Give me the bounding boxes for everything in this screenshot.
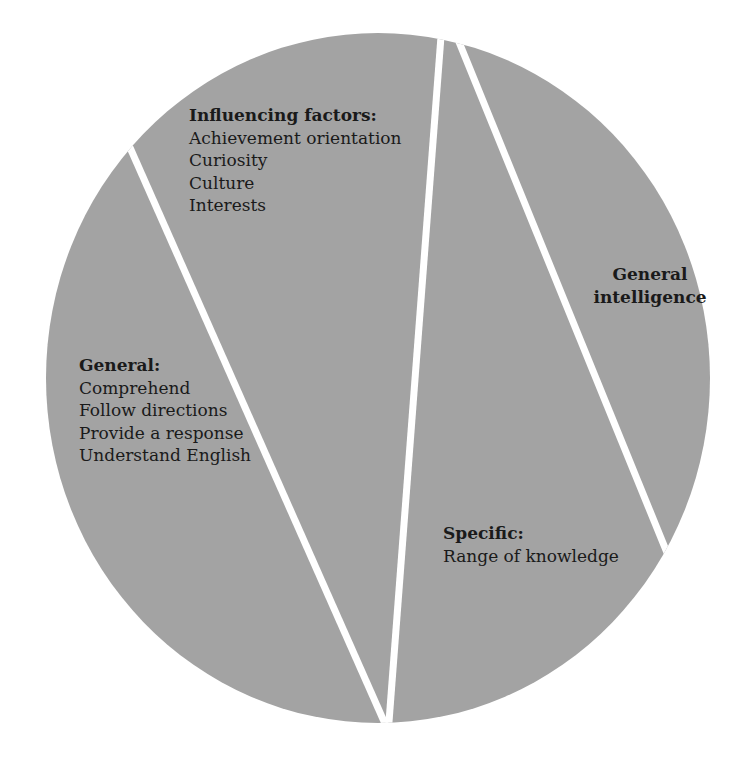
section-heading: General: — [79, 354, 251, 377]
section-item: Interests — [189, 194, 402, 217]
section-item: Achievement orientation — [189, 127, 402, 150]
section-item: Follow directions — [79, 399, 251, 422]
section-general: General: Comprehend Follow directions Pr… — [79, 354, 251, 467]
section-specific: Specific: Range of knowledge — [443, 522, 619, 567]
section-heading: Specific: — [443, 522, 619, 545]
section-item: Curiosity — [189, 149, 402, 172]
section-heading-line: General — [590, 263, 710, 286]
section-item: Understand English — [79, 444, 251, 467]
section-item: Comprehend — [79, 377, 251, 400]
section-item: Culture — [189, 172, 402, 195]
section-general-intelligence: General intelligence — [590, 263, 710, 308]
section-item: Range of knowledge — [443, 545, 619, 568]
section-item: Provide a response — [79, 422, 251, 445]
knowledge-circle-diagram: Influencing factors: Achievement orienta… — [0, 0, 746, 757]
section-influencing-factors: Influencing factors: Achievement orienta… — [189, 104, 402, 217]
section-heading: Influencing factors: — [189, 104, 402, 127]
section-heading-line: intelligence — [590, 286, 710, 309]
